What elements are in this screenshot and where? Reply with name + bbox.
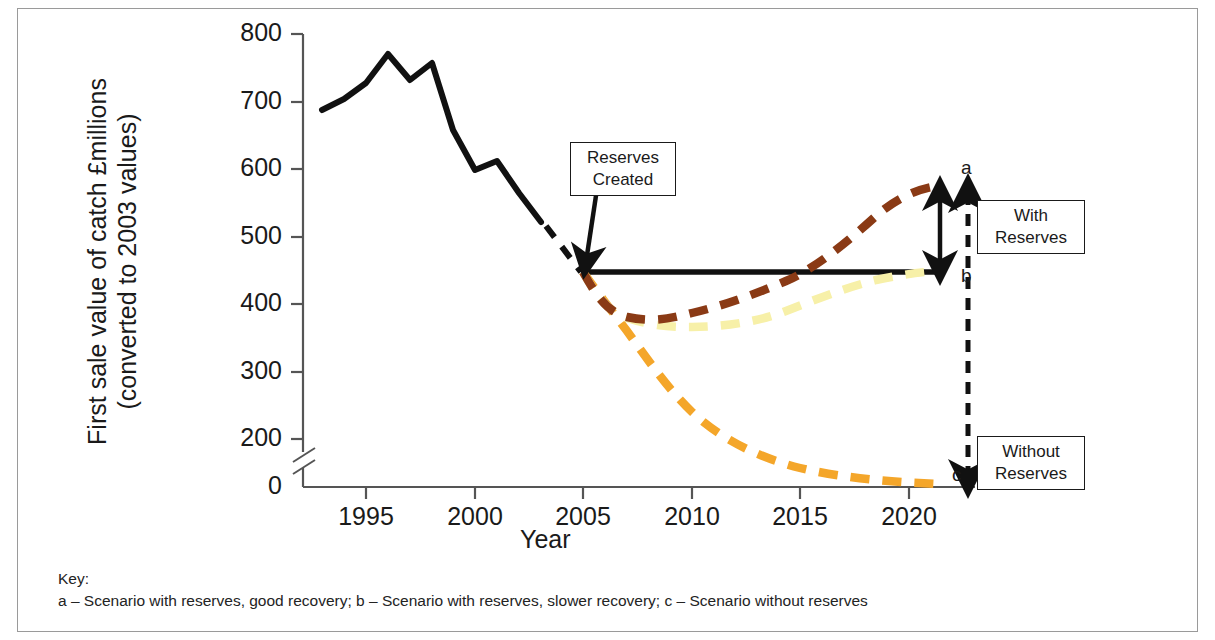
- y-axis-title-line1: First sale value of catch £millions: [83, 37, 113, 487]
- chart-key: Key: a – Scenario with reserves, good re…: [58, 568, 868, 613]
- key-title: Key:: [58, 568, 868, 590]
- annotation-without-reserves-line1: Without: [987, 441, 1075, 463]
- y-tick-label-500: 500: [212, 221, 282, 250]
- series-scenario-a: [583, 186, 938, 320]
- series-gap-dashed: [546, 226, 581, 272]
- x-tick-label-2000: 2000: [430, 502, 520, 531]
- x-tick-label-1995: 1995: [321, 502, 411, 531]
- endpoint-label-b: b: [961, 265, 972, 287]
- annotation-reserves-created-line2: Created: [580, 169, 666, 191]
- annotation-reserves-created: Reserves Created: [570, 142, 676, 196]
- y-tick-label-700: 700: [212, 86, 282, 115]
- annotation-without-reserves: Without Reserves: [977, 436, 1085, 490]
- y-tick-label-300: 300: [212, 356, 282, 385]
- x-tick-label-2015: 2015: [755, 502, 845, 531]
- y-tick-label-200: 200: [212, 423, 282, 452]
- y-tick-label-400: 400: [212, 288, 282, 317]
- chart-figure: 800 700 600 500 400 300 200 0 1995 2000 …: [0, 0, 1215, 640]
- chart-canvas: [0, 0, 1215, 640]
- y-axis-title-line2: (converted to 2003 values): [112, 37, 142, 487]
- x-axis-title: Year: [520, 525, 571, 554]
- key-entries: a – Scenario with reserves, good recover…: [58, 590, 868, 612]
- reserves-created-arrow: [586, 189, 597, 262]
- axes: [291, 34, 975, 499]
- annotation-without-reserves-line2: Reserves: [987, 463, 1075, 485]
- y-tick-label-800: 800: [212, 18, 282, 47]
- series-historic-line: [322, 54, 541, 222]
- x-tick-label-2010: 2010: [647, 502, 737, 531]
- y-axis-title: First sale value of catch £millions (con…: [83, 37, 142, 487]
- series-scenario-c: [583, 272, 938, 484]
- x-tick-label-2020: 2020: [864, 502, 954, 531]
- annotation-with-reserves-line2: Reserves: [987, 227, 1075, 249]
- annotation-with-reserves-line1: With: [987, 205, 1075, 227]
- annotation-reserves-created-line1: Reserves: [580, 147, 666, 169]
- endpoint-label-a: a: [961, 157, 972, 179]
- y-tick-label-0: 0: [212, 471, 282, 500]
- endpoint-label-c: c: [952, 464, 962, 486]
- annotation-with-reserves: With Reserves: [977, 200, 1085, 254]
- y-tick-label-600: 600: [212, 153, 282, 182]
